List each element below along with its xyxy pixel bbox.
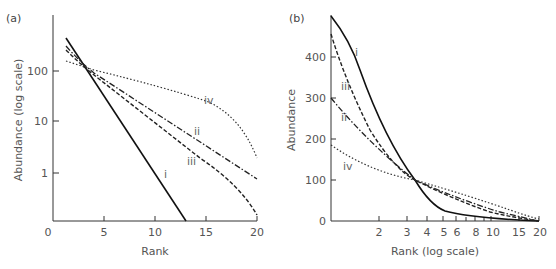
panel-a-xtick-15: 15 xyxy=(199,226,213,239)
panel-b-xtick-8: 8 xyxy=(473,226,480,239)
panel-a-xtick-20: 20 xyxy=(250,226,264,239)
panel-a-curve-iii xyxy=(66,50,257,215)
panel-b-xtick-15: 15 xyxy=(512,226,526,239)
panel-b-ytick-100: 100 xyxy=(305,174,326,187)
panel-b-label-iii: iii xyxy=(341,80,350,93)
panel-a-xtick-10: 10 xyxy=(148,226,162,239)
panel-b-xtick-6: 6 xyxy=(454,226,461,239)
panel-b-xtick-4: 4 xyxy=(424,226,431,239)
panel-b-label: (b) xyxy=(289,12,305,25)
panel-b-label-ii: ii xyxy=(341,111,347,124)
figure: (a) 100 10 1 0 5 10 15 20 Rank Abundance… xyxy=(0,0,556,269)
panel-b-ytick-400: 400 xyxy=(305,51,326,64)
panel-b-xtick-20: 20 xyxy=(533,226,547,239)
panel-b-xtick-5: 5 xyxy=(441,226,448,239)
panel-a-label-iv: iv xyxy=(204,94,214,107)
panel-a-ytick-100: 100 xyxy=(27,65,48,78)
panel-a-xtick-0: 0 xyxy=(45,226,52,239)
panel-b-xtick-2: 2 xyxy=(376,226,383,239)
panel-b-ytick-200: 200 xyxy=(305,133,326,146)
panel-a-y-title: Abundance (log scale) xyxy=(12,59,25,182)
panel-b-xtick-10: 10 xyxy=(486,226,500,239)
panel-a-label: (a) xyxy=(6,12,21,25)
panel-b-x-title: Rank (log scale) xyxy=(391,245,479,258)
panel-a-label-iii: iii xyxy=(187,155,196,168)
panel-b-curve-iv xyxy=(331,145,539,219)
panel-b-label-i: i xyxy=(355,46,358,59)
panel-a-ytick-10: 10 xyxy=(34,115,48,128)
panel-a-curve-ii xyxy=(66,46,257,179)
panel-b-label-iv: iv xyxy=(343,160,353,173)
panel-a-curve-i xyxy=(66,38,186,221)
panel-b-curve-iii xyxy=(331,34,539,221)
panel-b-curve-ii xyxy=(331,98,539,221)
panel-a-label-ii: ii xyxy=(194,125,200,138)
panel-b-ytick-0: 0 xyxy=(319,215,326,228)
panel-b-y-title: Abundance xyxy=(285,89,298,151)
panel-a-x-title: Rank xyxy=(141,245,169,258)
panel-a-label-i: i xyxy=(164,168,167,181)
panel-a: (a) 100 10 1 0 5 10 15 20 Rank Abundance… xyxy=(6,12,264,258)
panel-b-ytick-300: 300 xyxy=(305,92,326,105)
panel-b-xtick-3: 3 xyxy=(404,226,411,239)
panel-b: (b) 400 300 200 100 0 2 3 4 5 6 8 10 15 … xyxy=(285,12,547,258)
panel-a-ytick-1: 1 xyxy=(41,167,48,180)
panel-a-xtick-5: 5 xyxy=(101,226,108,239)
